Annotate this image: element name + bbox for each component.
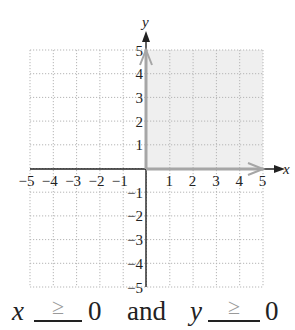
svg-text:3: 3	[136, 90, 144, 106]
svg-text:1: 1	[136, 137, 144, 153]
svg-text:−4: −4	[127, 256, 143, 272]
x-answer-symbol: ≥	[34, 294, 82, 320]
svg-text:4: 4	[136, 66, 144, 82]
svg-text:−5: −5	[127, 280, 143, 296]
x-axis-label: x	[282, 161, 290, 177]
coordinate-plane: y x −5−4−3−2−112345 54321−1−2−3−4−5	[0, 0, 295, 300]
svg-text:5: 5	[136, 43, 144, 59]
caption-connector: and	[127, 296, 166, 327]
svg-text:4: 4	[235, 173, 243, 189]
y-axis-label: y	[140, 14, 149, 30]
inequality-caption: x ≥ 0 and y ≥ 0	[0, 296, 295, 330]
caption-y-value: 0	[265, 296, 279, 327]
svg-text:−3: −3	[127, 232, 143, 248]
y-answer-symbol: ≥	[208, 294, 260, 320]
svg-text:5: 5	[259, 173, 267, 189]
caption-x-value: 0	[88, 296, 102, 327]
svg-text:−2: −2	[127, 208, 143, 224]
svg-text:1: 1	[166, 173, 174, 189]
svg-text:−2: −2	[88, 173, 104, 189]
svg-text:−1: −1	[112, 173, 128, 189]
caption-x-var: x	[12, 296, 24, 327]
svg-text:−1: −1	[127, 185, 143, 201]
svg-text:−3: −3	[65, 173, 81, 189]
y-axis-arrow-icon	[142, 31, 150, 42]
svg-text:3: 3	[212, 173, 220, 189]
svg-text:−5: −5	[19, 173, 35, 189]
shaded-solution-region	[146, 50, 263, 169]
svg-text:−4: −4	[42, 173, 58, 189]
svg-text:2: 2	[189, 173, 197, 189]
caption-y-var: y	[190, 296, 202, 327]
svg-text:2: 2	[136, 114, 144, 130]
